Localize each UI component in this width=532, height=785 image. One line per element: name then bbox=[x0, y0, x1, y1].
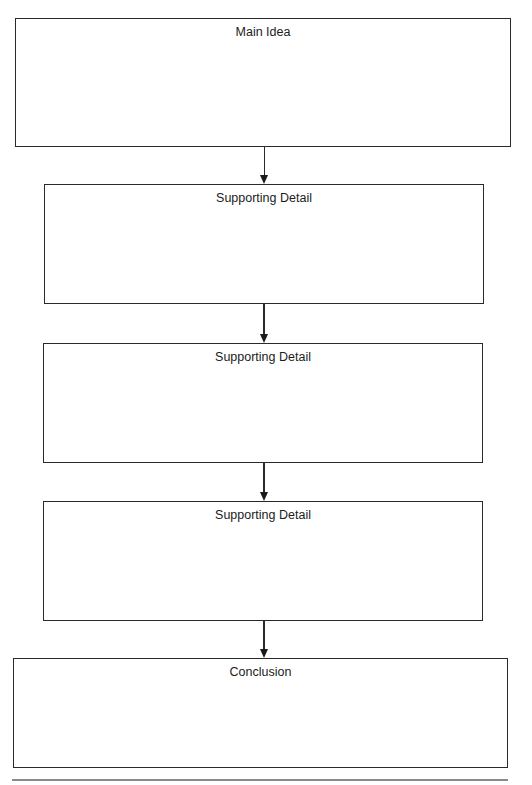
supporting-detail-box-2: Supporting Detail bbox=[43, 343, 483, 463]
supporting-detail-label: Supporting Detail bbox=[44, 508, 482, 522]
connector-line bbox=[264, 147, 266, 177]
arrow-down-icon bbox=[260, 492, 268, 501]
main-idea-box: Main Idea bbox=[15, 18, 511, 147]
arrow-down-icon bbox=[260, 334, 268, 343]
conclusion-label: Conclusion bbox=[14, 665, 507, 679]
supporting-detail-box-1: Supporting Detail bbox=[44, 184, 484, 304]
connector-line bbox=[263, 463, 265, 494]
conclusion-box: Conclusion bbox=[13, 658, 508, 768]
supporting-detail-box-3: Supporting Detail bbox=[43, 501, 483, 621]
connector-line bbox=[263, 304, 265, 336]
arrow-down-icon bbox=[260, 649, 268, 658]
supporting-detail-label: Supporting Detail bbox=[45, 191, 483, 205]
arrow-down-icon bbox=[260, 175, 268, 184]
main-idea-label: Main Idea bbox=[16, 25, 510, 39]
footer-divider bbox=[12, 779, 508, 781]
connector-line bbox=[263, 621, 265, 650]
supporting-detail-label: Supporting Detail bbox=[44, 350, 482, 364]
